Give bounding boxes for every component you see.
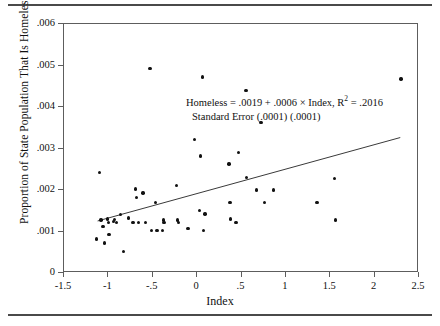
x-tick-label: -1 bbox=[87, 281, 127, 292]
data-point bbox=[201, 75, 204, 78]
data-point bbox=[203, 212, 206, 215]
data-point bbox=[186, 227, 189, 230]
data-point bbox=[227, 162, 230, 165]
y-axis-title: Proportion of State Population That Is H… bbox=[18, 0, 30, 240]
data-point bbox=[199, 154, 202, 157]
x-tick-label: -1.5 bbox=[43, 281, 83, 292]
x-tick-label: 2 bbox=[354, 281, 394, 292]
y-tick-label: 0 bbox=[11, 267, 55, 278]
x-tick-mark bbox=[374, 272, 375, 277]
data-point bbox=[228, 201, 231, 204]
data-point bbox=[99, 218, 102, 221]
x-axis-title: Index bbox=[0, 294, 440, 309]
data-point bbox=[101, 225, 104, 228]
data-point bbox=[334, 218, 337, 221]
y-tick-label: .006 bbox=[11, 18, 55, 29]
x-tick-label: 1.5 bbox=[309, 281, 349, 292]
data-point bbox=[399, 77, 402, 80]
x-tick-label: .5 bbox=[221, 281, 261, 292]
data-point bbox=[137, 221, 140, 224]
regression-equation-line: Homeless = .0019 + .0006 × Index, R2 = .… bbox=[186, 92, 383, 110]
data-point bbox=[272, 188, 275, 191]
data-point bbox=[315, 201, 318, 204]
y-tick-label: .001 bbox=[11, 226, 55, 237]
y-tick-mark bbox=[58, 231, 63, 232]
equation-suffix: = .2016 bbox=[348, 97, 383, 108]
x-tick-mark bbox=[196, 272, 197, 277]
data-point bbox=[177, 221, 180, 224]
data-point bbox=[107, 221, 110, 224]
data-point bbox=[255, 188, 258, 191]
data-point bbox=[193, 138, 196, 141]
data-point bbox=[148, 67, 151, 70]
x-tick-mark bbox=[418, 272, 419, 277]
data-point bbox=[155, 229, 158, 232]
data-point bbox=[95, 237, 98, 240]
data-point bbox=[115, 221, 118, 224]
x-tick-mark bbox=[329, 272, 330, 277]
data-point bbox=[202, 229, 205, 232]
data-point bbox=[131, 221, 134, 224]
y-tick-mark bbox=[58, 148, 63, 149]
data-point bbox=[263, 201, 266, 204]
y-tick-mark bbox=[58, 65, 63, 66]
x-tick-mark bbox=[63, 272, 64, 277]
scatter-plot-figure: Proportion of State Population That Is H… bbox=[0, 0, 440, 326]
regression-annotation: Homeless = .0019 + .0006 × Index, R2 = .… bbox=[186, 92, 383, 124]
y-tick-mark bbox=[58, 106, 63, 107]
x-tick-label: 0 bbox=[176, 281, 216, 292]
y-tick-mark bbox=[58, 23, 63, 24]
data-point bbox=[234, 221, 237, 224]
plot-area bbox=[63, 23, 418, 272]
y-tick-label: .005 bbox=[11, 60, 55, 71]
standard-error-line: Standard Error (.0001) (.0001) bbox=[186, 110, 383, 124]
data-point bbox=[162, 221, 165, 224]
data-point bbox=[141, 191, 144, 194]
x-tick-mark bbox=[241, 272, 242, 277]
x-tick-label: 1 bbox=[265, 281, 305, 292]
x-tick-mark bbox=[107, 272, 108, 277]
x-tick-mark bbox=[152, 272, 153, 277]
equation-mid: Index, R bbox=[306, 97, 345, 108]
x-tick-mark bbox=[285, 272, 286, 277]
y-tick-mark bbox=[58, 189, 63, 190]
data-point bbox=[122, 250, 125, 253]
data-point bbox=[154, 201, 157, 204]
x-tick-label: 2.5 bbox=[398, 281, 438, 292]
equation-prefix: Homeless = .0019 + .0006 bbox=[186, 97, 300, 108]
y-tick-label: .003 bbox=[11, 143, 55, 154]
y-tick-label: .004 bbox=[11, 101, 55, 112]
x-tick-label: -.5 bbox=[132, 281, 172, 292]
y-tick-label: .002 bbox=[11, 184, 55, 195]
